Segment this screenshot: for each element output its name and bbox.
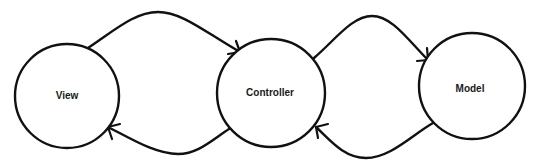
mvc-diagram: View Controller Model [0, 0, 539, 168]
edge-model-to-controller [316, 123, 433, 158]
node-model: Model [419, 33, 525, 139]
model-label: Model [456, 83, 485, 94]
node-view: View [15, 44, 119, 148]
edge-controller-to-model [314, 16, 428, 61]
node-controller: Controller [217, 39, 325, 147]
controller-label: Controller [246, 87, 294, 98]
view-label: View [56, 90, 79, 101]
edge-view-to-controller [88, 12, 240, 54]
edge-controller-to-view [108, 124, 229, 154]
